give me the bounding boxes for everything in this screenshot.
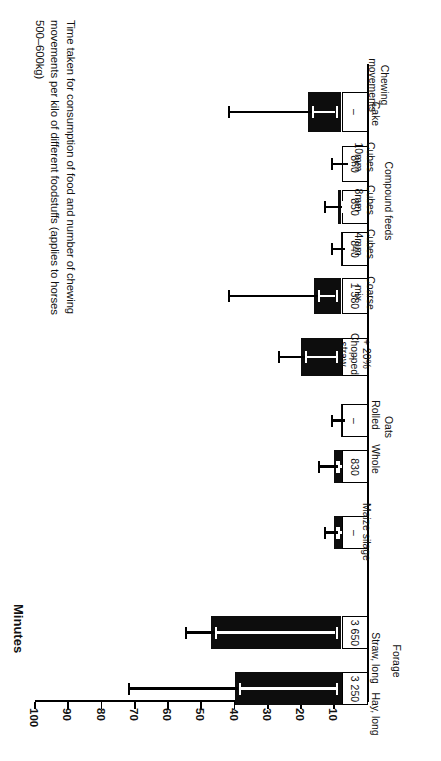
axis-tick-label-50: 50 [194, 708, 206, 721]
value-text: – [349, 109, 361, 115]
axis-tick-label-40: 40 [228, 708, 240, 721]
axis-tick-label-90: 90 [61, 708, 73, 721]
category-label-cubes-8mm: Cubes 8mm [353, 179, 376, 221]
category-label-whole: Whole [369, 438, 381, 480]
axis-tick-label-10: 10 [327, 708, 339, 721]
group-label-forage: Forage [390, 638, 402, 684]
axis-tick-label-60: 60 [161, 708, 173, 721]
value-text: 3 250 [349, 675, 361, 701]
chewing-movements-header: Chewing movements [367, 50, 390, 120]
group-label-compound-feeds: Compound feeds [382, 155, 394, 247]
category-label-maize-silage: Maize silage [360, 495, 372, 569]
value-axis-title: Minutes [11, 604, 26, 653]
category-label-cubes-4mm: Cubes 4mm [353, 223, 376, 265]
axis-tick-label-30: 30 [261, 708, 273, 721]
category-label-rolled: Rolled [369, 395, 381, 435]
group-label-oats: Oats [382, 410, 394, 444]
axis-tick-label-80: 80 [95, 708, 107, 721]
category-label-chopped-straw: + 20% Chopped straw [337, 326, 372, 382]
category-label-straw-long: Straw, long [369, 629, 381, 687]
chewing-movements-value-cake: – [342, 92, 368, 132]
value-text: – [349, 530, 361, 536]
category-label-hay-long: Hay, long [369, 686, 381, 742]
value-text: – [349, 418, 361, 424]
axis-tick-label-100: 100 [28, 708, 40, 727]
category-label-coarse-mix: Coarse mix [353, 271, 376, 315]
bar-chart: Minutes 100908070605040302010 3 2503 650… [0, 0, 441, 761]
chewing-movements-value-whole: 830 [342, 450, 368, 483]
axis-tick-label-20: 20 [294, 708, 306, 721]
chewing-movements-value-straw_long: 3 650 [342, 616, 368, 649]
axis-tick-label-70: 70 [128, 708, 140, 721]
category-label-cubes-10mm: Cubes 10mm [353, 133, 376, 181]
value-text: 3 650 [349, 619, 361, 645]
chewing-movements-value-hay_long: 3 250 [342, 672, 368, 705]
value-text: 830 [349, 458, 361, 476]
